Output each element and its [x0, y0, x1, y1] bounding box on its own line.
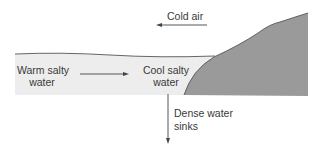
- warm-salty-water-label-line1: Warm salty: [17, 64, 67, 76]
- land-mass: [184, 13, 308, 96]
- dense-water-sinks-label-line2: sinks: [174, 120, 198, 132]
- cool-salty-water-label-line1: Cool salty: [141, 64, 191, 76]
- warm-salty-water-label-line2: water: [17, 76, 67, 88]
- cold-air-arrow-icon: [156, 23, 207, 27]
- sinking-arrow-icon: [166, 94, 170, 144]
- dense-water-sinks-label-line1: Dense water: [174, 107, 233, 119]
- cool-salty-water-label-line2: water: [141, 76, 191, 88]
- cold-air-label: Cold air: [167, 10, 203, 22]
